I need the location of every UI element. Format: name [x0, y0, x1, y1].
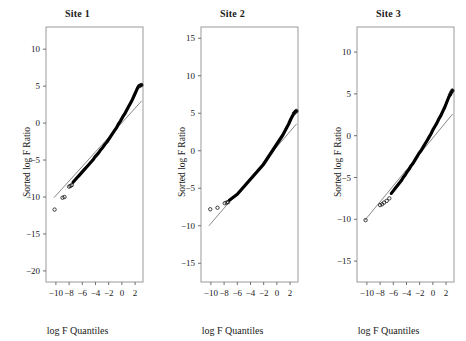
x-axis-tick-label: −4 [246, 288, 256, 298]
x-axis-tick-label: −4 [402, 288, 412, 298]
x-axis-tick-label: −6 [389, 288, 399, 298]
reference-line [54, 101, 142, 198]
x-axis-tick-label: 0 [120, 288, 125, 298]
x-axis-tick-label: −10 [49, 288, 64, 298]
y-axis-tick-label: 0 [347, 131, 352, 141]
y-axis-tick-label: 10 [31, 44, 41, 54]
x-axis-tick-label: −8 [375, 288, 385, 298]
panel-title: Site 3 [311, 8, 466, 19]
y-axis-tick-label: −20 [26, 266, 41, 276]
x-axis-tick-label: 0 [431, 288, 436, 298]
x-axis-label: log F Quantiles [155, 325, 310, 336]
y-axis-tick-label: 0 [36, 118, 41, 128]
y-axis-label: Sorted log F Ratio [333, 127, 343, 197]
x-axis-tick-label: −6 [78, 288, 88, 298]
x-axis-label: log F Quantiles [0, 325, 155, 336]
y-axis-tick-label: 5 [191, 108, 196, 118]
y-axis-tick-label: −10 [337, 214, 352, 224]
y-axis-tick-label: −15 [337, 256, 352, 266]
data-point [216, 206, 219, 209]
y-axis-tick-label: 15 [186, 33, 196, 43]
qq-plot-figure: 1050−5−10−15−20−10−8−6−4−202 Site 1 Sort… [0, 0, 466, 341]
y-axis-tick-label: 5 [36, 81, 41, 91]
data-point-band [391, 91, 452, 194]
x-axis-tick-label: 2 [133, 288, 138, 298]
y-axis-tick-label: −15 [26, 229, 41, 239]
data-point [53, 208, 56, 211]
x-axis-tick-label: −8 [219, 288, 229, 298]
data-point-band [73, 85, 141, 182]
y-axis-tick-label: 0 [191, 146, 196, 156]
plot-frame [201, 27, 298, 282]
x-axis-tick-label: −8 [64, 288, 74, 298]
y-axis-label: Sorted log F Ratio [22, 127, 32, 197]
x-axis-label: log F Quantiles [311, 325, 466, 336]
y-axis-tick-label: −10 [181, 221, 196, 231]
data-point [209, 208, 212, 211]
data-point [388, 197, 391, 200]
x-axis-tick-label: −2 [104, 288, 114, 298]
x-axis-tick-label: −4 [91, 288, 101, 298]
x-axis-tick-label: −2 [259, 288, 269, 298]
x-axis-tick-label: −2 [415, 288, 425, 298]
chart-panel-site-2: 151050−5−10−15−10−8−6−4−202 Site 2 Sorte… [155, 0, 310, 341]
chart-panel-site-3: 1050−5−10−15−10−8−6−4−202 Site 3 Sorted … [311, 0, 466, 341]
panel-title: Site 2 [155, 8, 310, 19]
x-axis-tick-label: 2 [288, 288, 293, 298]
plot-frame [357, 27, 454, 282]
y-axis-tick-label: 10 [342, 47, 352, 57]
x-axis-tick-label: 2 [444, 288, 449, 298]
chart-panel-site-1: 1050−5−10−15−20−10−8−6−4−202 Site 1 Sort… [0, 0, 155, 341]
y-axis-label: Sorted log F Ratio [177, 127, 187, 197]
y-axis-tick-label: 5 [347, 89, 352, 99]
data-point-band [229, 111, 296, 200]
y-axis-tick-label: −15 [181, 258, 196, 268]
y-axis-tick-label: 10 [186, 71, 196, 81]
x-axis-tick-label: −6 [233, 288, 243, 298]
plot-frame [46, 27, 143, 282]
x-axis-tick-label: −10 [360, 288, 375, 298]
x-axis-tick-label: 0 [275, 288, 280, 298]
x-axis-tick-label: −10 [204, 288, 219, 298]
panel-title: Site 1 [0, 8, 155, 19]
